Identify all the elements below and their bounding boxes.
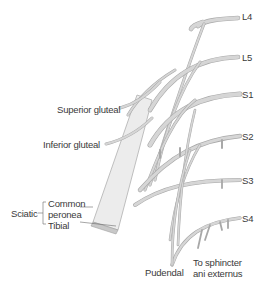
root-label-l5: L5 (242, 52, 252, 63)
root-label-s1: S1 (242, 89, 253, 100)
root-label-s4: S4 (242, 213, 253, 224)
sciatic-trunk (91, 95, 152, 234)
sacral-plexus-illustration (0, 0, 263, 283)
root-s1 (145, 94, 240, 190)
label-common-peronea-1: Common (48, 198, 85, 209)
label-superior-gluteal: Superior gluteal (57, 104, 120, 115)
root-label-l4: L4 (242, 11, 252, 22)
label-inferior-gluteal: Inferior gluteal (43, 139, 100, 150)
label-sphincter-2: ani externus (193, 268, 242, 279)
label-sphincter-1: To sphincter (193, 257, 242, 268)
root-label-s3: S3 (242, 175, 253, 186)
label-common-peronea-2: peronea (48, 209, 81, 220)
label-sciatic: Sciatic (11, 208, 38, 219)
label-pudendal: Pudendal (145, 267, 184, 278)
root-label-s2: S2 (242, 131, 253, 142)
label-tibial: Tibial (48, 220, 69, 231)
